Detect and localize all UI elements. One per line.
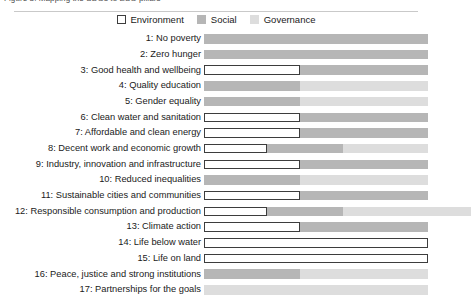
bar-row-label: 8: Decent work and economic growth (0, 144, 204, 153)
legend-label-social: Social (211, 15, 237, 25)
legend-label-governance: Governance (264, 15, 316, 25)
bar-row-label: 16: Peace, justice and strong institutio… (0, 270, 204, 279)
bar-track (204, 65, 428, 75)
bar-row: 17: Partnerships for the goals (0, 282, 432, 298)
bar-segment-soc (204, 269, 300, 279)
bar-row: 5: Gender equality (0, 94, 432, 110)
bar-row-label: 2: Zero hunger (0, 50, 204, 59)
bar-segment-gov (343, 207, 471, 217)
bar-row-label: 1: No poverty (0, 34, 204, 43)
bar-segment-env (204, 128, 300, 138)
bar-segment-soc (300, 128, 428, 138)
bar-track (204, 81, 428, 91)
bar-row: 12: Responsible consumption and producti… (0, 204, 432, 220)
bar-segment-env (204, 207, 267, 217)
bar-segment-env (204, 160, 300, 170)
bar-segment-gov (300, 175, 428, 185)
bar-row-label: 12: Responsible consumption and producti… (0, 207, 204, 216)
bar-track (204, 113, 428, 123)
bar-row-label: 10: Reduced inequalities (0, 175, 204, 184)
bar-segment-env (204, 113, 300, 123)
bar-track (204, 175, 428, 185)
bar-segment-soc (267, 144, 343, 154)
bar-track (204, 34, 428, 44)
bar-track (204, 254, 428, 264)
bar-row-label: 14: Life below water (0, 238, 204, 247)
legend-item-governance[interactable]: Governance (250, 15, 316, 25)
bar-segment-gov (343, 144, 428, 154)
bar-segment-gov (300, 81, 428, 91)
bar-row-label: 13: Climate action (0, 222, 204, 231)
chart-legend: Environment Social Governance (0, 15, 432, 25)
bar-segment-gov (204, 285, 428, 295)
bar-track (204, 50, 428, 60)
bar-segment-env (204, 191, 300, 201)
bar-segment-soc (204, 97, 300, 107)
bar-segment-soc (300, 160, 428, 170)
bar-row: 10: Reduced inequalities (0, 172, 432, 188)
bar-track (204, 191, 428, 201)
bar-row: 3: Good health and wellbeing (0, 62, 432, 78)
legend-swatch-environment-icon (117, 15, 126, 24)
bar-segment-soc (300, 65, 428, 75)
bar-row-label: 3: Good health and wellbeing (0, 66, 204, 75)
bar-track (204, 97, 428, 107)
bar-rows: 1: No poverty2: Zero hunger3: Good healt… (0, 31, 432, 298)
bar-segment-env (204, 65, 300, 75)
bar-row: 15: Life on land (0, 251, 432, 267)
bar-row-label: 17: Partnerships for the goals (0, 285, 204, 294)
bar-row-label: 7: Affordable and clean energy (0, 128, 204, 137)
cropped-caption-row: Figure 3. Mapping the SDGs to ESG pillar… (0, 0, 432, 9)
bar-row: 13: Climate action (0, 219, 432, 235)
bar-track (204, 222, 428, 232)
bar-row-label: 6: Clean water and sanitation (0, 113, 204, 122)
bar-row: 8: Decent work and economic growth (0, 141, 432, 157)
bar-track (204, 285, 428, 295)
bar-segment-soc (267, 207, 343, 217)
bar-track (204, 128, 428, 138)
caption-text: Figure 3. Mapping the SDGs to ESG pillar… (4, 0, 161, 3)
bar-row: 2: Zero hunger (0, 47, 432, 63)
legend-label-environment: Environment (131, 15, 184, 25)
bar-row: 14: Life below water (0, 235, 432, 251)
bar-track (204, 238, 428, 248)
bar-track (204, 269, 428, 279)
bar-segment-soc (300, 222, 428, 232)
legend-item-environment[interactable]: Environment (117, 15, 184, 25)
bar-segment-env (204, 222, 300, 232)
bar-segment-gov (300, 97, 428, 107)
bar-segment-env (204, 144, 267, 154)
bar-segment-soc (300, 113, 428, 123)
bar-segment-soc (204, 81, 300, 91)
bar-row: 4: Quality education (0, 78, 432, 94)
bar-track (204, 160, 428, 170)
legend-item-social[interactable]: Social (197, 15, 237, 25)
bar-row-label: 9: Industry, innovation and infrastructu… (0, 160, 204, 169)
bar-row: 6: Clean water and sanitation (0, 109, 432, 125)
bar-segment-soc (204, 175, 300, 185)
legend-swatch-governance-icon (250, 15, 259, 24)
bar-row: 11: Sustainable cities and communities (0, 188, 432, 204)
bar-segment-env (204, 238, 428, 248)
bar-row: 9: Industry, innovation and infrastructu… (0, 157, 432, 173)
bar-segment-env (204, 254, 428, 264)
bar-row: 16: Peace, justice and strong institutio… (0, 266, 432, 282)
legend-swatch-social-icon (197, 15, 206, 24)
bar-segment-soc (204, 50, 428, 60)
header-divider (14, 11, 418, 12)
bar-segment-soc (300, 191, 428, 201)
bar-row: 1: No poverty (0, 31, 432, 47)
bar-segment-soc (204, 34, 428, 44)
bar-row-label: 5: Gender equality (0, 97, 204, 106)
bar-segment-gov (300, 269, 428, 279)
bar-row: 7: Affordable and clean energy (0, 125, 432, 141)
bar-row-label: 15: Life on land (0, 254, 204, 263)
bar-row-label: 11: Sustainable cities and communities (0, 191, 204, 200)
bar-row-label: 4: Quality education (0, 81, 204, 90)
bar-track (204, 144, 428, 154)
bar-track (204, 207, 428, 217)
